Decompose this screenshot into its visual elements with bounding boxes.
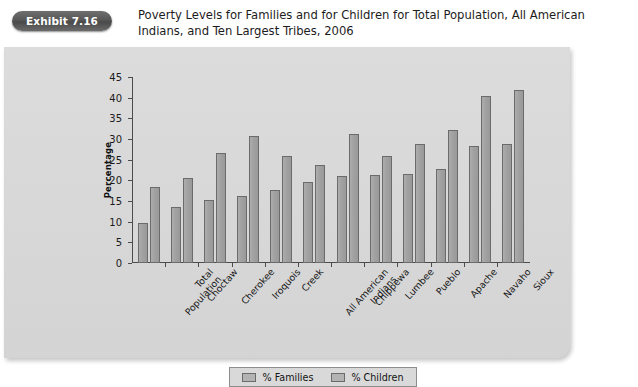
exhibit-header: Exhibit 7.16 Poverty Levels for Families… — [0, 0, 638, 52]
y-tick: 0 — [128, 263, 132, 264]
chart-legend: % Families % Children — [229, 367, 417, 387]
x-tick — [165, 263, 166, 267]
y-tick-label: 35 — [109, 113, 122, 124]
bar — [469, 146, 479, 263]
bar — [204, 200, 214, 263]
x-tick — [464, 263, 465, 267]
bar — [150, 187, 160, 263]
y-tick: 35 — [128, 118, 132, 119]
y-tick: 40 — [128, 98, 132, 99]
legend-label-children: % Children — [351, 372, 403, 383]
x-tick-label: Creek — [300, 267, 326, 294]
bar — [237, 196, 247, 263]
exhibit-badge-label: Exhibit 7.16 — [26, 15, 98, 27]
x-tick-label: Sioux — [532, 267, 557, 293]
x-tick-label: Apache — [469, 267, 500, 300]
legend-item-children: % Children — [331, 372, 403, 383]
y-tick-label: 20 — [109, 175, 122, 186]
x-tick — [497, 263, 498, 267]
chart-plot-background: Percentage 051015202530354045 Total Popu… — [4, 47, 570, 358]
chart-card: Percentage 051015202530354045 Total Popu… — [4, 47, 570, 358]
legend-swatch-families — [242, 373, 256, 382]
bar — [282, 156, 292, 263]
y-tick-label: 45 — [109, 72, 122, 83]
bar — [415, 144, 425, 263]
y-tick-label: 25 — [109, 154, 122, 165]
x-tick-label: Pueblo — [434, 267, 463, 297]
y-tick-label: 0 — [116, 258, 122, 269]
bar — [315, 165, 325, 263]
bar — [514, 90, 524, 263]
bar — [481, 96, 491, 263]
bar — [370, 175, 380, 263]
y-tick: 5 — [128, 242, 132, 243]
exhibit-number-badge: Exhibit 7.16 — [12, 11, 112, 31]
y-tick: 15 — [128, 201, 132, 202]
legend-swatch-children — [331, 373, 345, 382]
bar — [216, 153, 226, 263]
exhibit-title: Poverty Levels for Families and for Chil… — [138, 8, 618, 39]
plot-area: Percentage 051015202530354045 Total Popu… — [132, 77, 530, 263]
bar — [502, 144, 512, 263]
bar — [382, 156, 392, 263]
x-tick — [431, 263, 432, 267]
x-tick — [265, 263, 266, 267]
x-tick-label: Navaho — [502, 267, 534, 300]
bar — [138, 223, 148, 264]
bar — [303, 182, 313, 263]
x-tick-label: Cherokee — [239, 267, 276, 307]
bar — [403, 174, 413, 263]
y-tick-label: 30 — [109, 134, 122, 145]
bar — [337, 176, 347, 263]
bar — [270, 190, 280, 263]
y-tick: 10 — [128, 222, 132, 223]
x-tick — [198, 263, 199, 267]
y-tick: 45 — [128, 77, 132, 78]
bar — [436, 169, 446, 263]
x-tick — [364, 263, 365, 267]
x-tick — [397, 263, 398, 267]
x-tick — [331, 263, 332, 267]
bar — [249, 136, 259, 263]
legend-label-families: % Families — [262, 372, 313, 383]
bar — [448, 130, 458, 263]
y-axis-line — [132, 77, 133, 263]
y-tick-label: 15 — [109, 196, 122, 207]
legend-item-families: % Families — [242, 372, 313, 383]
y-tick-label: 10 — [109, 216, 122, 227]
y-tick: 20 — [128, 180, 132, 181]
y-tick: 30 — [128, 139, 132, 140]
bar — [349, 134, 359, 263]
bar — [171, 207, 181, 263]
y-tick: 25 — [128, 160, 132, 161]
bar — [183, 178, 193, 263]
y-tick-label: 5 — [116, 237, 122, 248]
y-tick-label: 40 — [109, 92, 122, 103]
x-tick — [298, 263, 299, 267]
